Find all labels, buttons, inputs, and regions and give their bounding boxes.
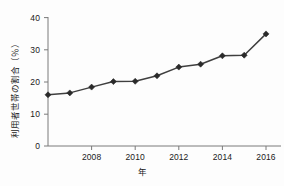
axis-lines [48, 17, 281, 146]
data-point-markers [45, 31, 269, 98]
y-tick-label-10: 10 [18, 109, 40, 119]
x-tick-label-2012: 2012 [162, 152, 196, 162]
x-axis-title: 年 [0, 165, 284, 177]
y-axis-ticks [44, 18, 48, 146]
y-tick-label-20: 20 [18, 77, 40, 87]
y-tick-label-40: 40 [18, 13, 40, 23]
data-line-series [48, 34, 266, 95]
y-tick-label-0: 0 [18, 141, 40, 151]
line-chart-figure: 40 30 20 10 0 2008 2010 2012 2014 2016 利… [0, 0, 284, 186]
y-axis-title: 利用者世帯の割合（％） [8, 32, 20, 144]
x-tick-label-2008: 2008 [75, 152, 109, 162]
x-tick-label-2014: 2014 [205, 152, 239, 162]
y-tick-label-30: 30 [18, 45, 40, 55]
x-tick-label-2016: 2016 [249, 152, 283, 162]
x-tick-label-2010: 2010 [118, 152, 152, 162]
x-axis-ticks [92, 146, 266, 150]
